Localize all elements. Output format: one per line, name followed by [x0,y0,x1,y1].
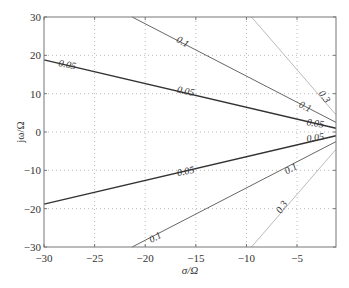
contour-label: 0.05 [306,131,325,144]
contour-label: 0.05 [176,84,195,98]
x-tick-label: −20 [137,252,155,264]
x-tick-label: −5 [291,252,303,264]
chart: 0.050.050.050.050.050.10.10.10.10.30.3 −… [0,0,349,288]
x-tick-label: −25 [86,252,104,264]
contour-label: 0.1 [297,99,313,114]
y-tick-label: 0 [36,126,42,138]
x-tick-label: −15 [187,252,205,264]
y-tick-label: 30 [30,11,42,23]
y-tick-label: −20 [24,203,42,215]
x-axis-label: σ/Ω [182,264,198,276]
contour-line-0.1 [132,142,336,247]
x-tick-label: −30 [35,252,53,264]
y-tick-label: 20 [30,49,42,61]
y-axis-label: jω/Ω [14,121,26,144]
grid [44,17,336,247]
contour-labels: 0.050.050.050.050.050.10.10.10.10.30.3 [58,34,333,245]
contour-label: 0.1 [147,229,163,245]
x-tick-label: −10 [238,252,256,264]
contour-label: 0.05 [306,116,325,129]
y-tick-label: −10 [24,164,42,176]
contour-label: 0.05 [176,164,195,178]
y-tick-label: 10 [30,88,42,100]
contour-label: 0.1 [175,34,191,50]
contour-label: 0.1 [283,161,299,177]
contour-label: 0.3 [317,88,333,105]
x-axis-ticks: −30−25−20−15−10−5 [35,17,303,264]
contour-label: 0.3 [273,199,289,216]
y-axis-ticks: 3020100−10−20−30 [24,11,336,253]
contour-label: 0.05 [58,57,77,71]
y-tick-label: −30 [24,241,42,253]
